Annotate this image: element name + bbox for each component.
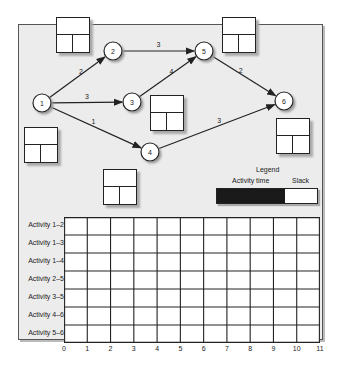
activity-time-label: 3 [85, 93, 89, 100]
gantt-tick-label: 2 [103, 345, 119, 352]
event-node-label: 5 [202, 48, 206, 55]
activity-arrow-1-4 [50, 107, 141, 148]
gantt-tick-label: 3 [126, 345, 142, 352]
event-node-label: 2 [111, 48, 115, 55]
gantt-tick-label: 5 [172, 345, 188, 352]
gantt-tick-label: 11 [312, 345, 328, 352]
node-1-time-box [24, 127, 58, 163]
activity-time-label: 1 [92, 118, 96, 125]
event-node-label: 6 [282, 98, 286, 105]
gantt-tick-label: 6 [196, 345, 212, 352]
gantt-row-label: Activity 4–6 [28, 311, 64, 318]
node-5-time-box [222, 17, 256, 53]
gantt-row-label: Activity 2–5 [28, 275, 64, 282]
gantt-tick-label: 7 [219, 345, 235, 352]
gantt-tick-label: 0 [56, 345, 72, 352]
node-3-time-box [150, 95, 184, 131]
gantt-row-label: Activity 3–5 [28, 293, 64, 300]
node-4-time-box [103, 169, 137, 205]
event-node-label: 4 [148, 149, 152, 156]
gantt-tick-label: 9 [265, 345, 281, 352]
activity-time-label: 2 [79, 68, 83, 75]
legend-activity-swatch [217, 189, 285, 203]
legend-bar [216, 188, 318, 204]
activity-time-label: 3 [217, 117, 221, 124]
activity-arrow-1-3 [51, 102, 122, 103]
gantt-grid [64, 217, 320, 343]
legend-activity-label: Activity time [232, 177, 269, 184]
gantt-row-label: Activity 5–6 [28, 329, 64, 336]
gantt-gridlines [64, 217, 320, 343]
node-2-time-box [56, 17, 90, 53]
gantt-tick-label: 8 [242, 345, 258, 352]
activity-time-label: 4 [170, 68, 174, 75]
activity-arrow-3-5 [139, 57, 195, 97]
activity-time-label: 2 [239, 67, 243, 74]
node-6-time-box [276, 118, 310, 154]
activity-arrow-5-6 [212, 56, 276, 96]
legend-title: Legend [256, 166, 279, 173]
event-node-label: 1 [40, 100, 44, 107]
event-node-label: 3 [130, 99, 134, 106]
activity-arrow-1-2 [49, 57, 105, 98]
gantt-tick-label: 4 [149, 345, 165, 352]
gantt-row-label: Activity 1–4 [28, 257, 64, 264]
activity-time-label: 3 [157, 41, 161, 48]
legend-slack-label: Slack [292, 177, 309, 184]
gantt-tick-label: 1 [79, 345, 95, 352]
gantt-row-label: Activity 1–2 [28, 221, 64, 228]
gantt-tick-label: 10 [289, 345, 305, 352]
gantt-row-label: Activity 1–3 [28, 239, 64, 246]
